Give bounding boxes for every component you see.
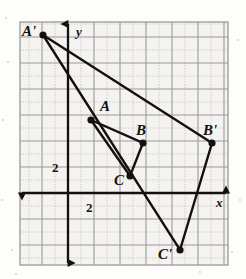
- coordinate-grid-diagram: A'ABB'CC' x y 2 2: [0, 0, 246, 279]
- plot-background: [20, 22, 228, 265]
- scan-speck: [11, 249, 13, 251]
- point-label-a-prime: A': [21, 23, 36, 39]
- vertex-dot-c-prime: [176, 246, 183, 253]
- scan-speck: [239, 199, 241, 201]
- scan-speck: [199, 271, 201, 273]
- point-label-b: B: [135, 122, 146, 138]
- scan-speck: [7, 61, 9, 63]
- scan-speck: [1, 199, 3, 201]
- scan-speck: [237, 39, 239, 41]
- x-axis-tick-label: 2: [86, 200, 93, 215]
- point-label-b-prime: B': [202, 122, 217, 138]
- scan-speck: [15, 273, 17, 275]
- scan-speck: [5, 17, 7, 19]
- x-axis-label: x: [215, 195, 223, 210]
- point-label-c: C: [114, 172, 125, 188]
- vertex-dot-c: [126, 172, 133, 179]
- y-axis-tick-label: 2: [52, 160, 59, 175]
- vertex-dot-b: [139, 139, 146, 146]
- scan-speck: [2, 119, 4, 121]
- y-axis-label: y: [74, 24, 82, 39]
- point-label-a: A: [99, 98, 110, 114]
- point-label-c-prime: C': [158, 246, 172, 262]
- vertex-dot-b-prime: [208, 139, 215, 146]
- vertex-dot-a: [87, 116, 94, 123]
- vertex-dot-a-prime: [39, 31, 46, 38]
- figure-canvas: A'ABB'CC' x y 2 2: [0, 0, 246, 279]
- scan-speck: [231, 251, 233, 253]
